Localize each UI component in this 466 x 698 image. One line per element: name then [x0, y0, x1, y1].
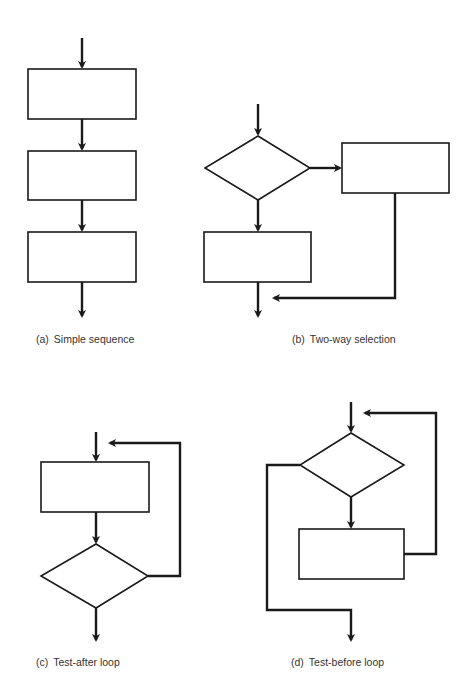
process-box-right [342, 143, 449, 193]
process-box-3 [28, 232, 136, 282]
process-box-left [204, 232, 311, 282]
panel-b-two-way-selection [204, 104, 449, 316]
caption-a: (a)Simple sequence [36, 333, 134, 345]
caption-title: Test-after loop [53, 656, 120, 668]
caption-label: (a) [36, 333, 49, 345]
caption-d: (d)Test-before loop [291, 656, 384, 668]
caption-title: Test-before loop [309, 656, 384, 668]
caption-label: (d) [291, 656, 304, 668]
decision-diamond [300, 433, 404, 497]
process-box-1 [28, 69, 136, 119]
loop-back-arrow [110, 443, 180, 576]
caption-label: (c) [36, 656, 48, 668]
caption-b: (b)Two-way selection [292, 333, 396, 345]
caption-title: Simple sequence [54, 333, 135, 345]
panel-a-simple-sequence [28, 38, 136, 316]
exit-arrow [267, 465, 351, 640]
process-box [299, 529, 404, 579]
process-box [41, 462, 149, 512]
caption-c: (c)Test-after loop [36, 656, 120, 668]
panel-d-test-before-loop [267, 402, 436, 640]
process-box-2 [28, 151, 136, 200]
decision-diamond [41, 544, 148, 608]
loop-back-arrow [365, 413, 436, 554]
flowchart-figure [0, 0, 466, 698]
caption-title: Two-way selection [310, 333, 396, 345]
decision-diamond [205, 136, 310, 200]
caption-label: (b) [292, 333, 305, 345]
panel-c-test-after-loop [41, 432, 180, 640]
